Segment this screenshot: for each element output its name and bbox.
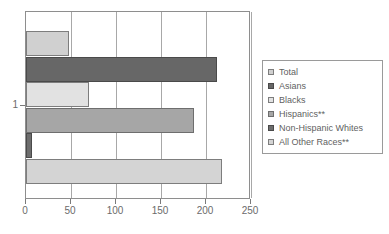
x-axis-tick-label: 200 bbox=[185, 205, 225, 216]
legend-swatch-icon bbox=[268, 83, 274, 89]
legend-item-label: Blacks bbox=[279, 95, 306, 106]
x-axis-tick-label: 50 bbox=[50, 205, 90, 216]
x-axis-tick-mark bbox=[70, 199, 71, 204]
x-axis-tick-label: 150 bbox=[140, 205, 180, 216]
chart-legend: TotalAsiansBlacksHispanics**Non-Hispanic… bbox=[262, 60, 383, 154]
bar-all-other-races bbox=[26, 159, 222, 184]
x-axis-tick-label: 0 bbox=[5, 205, 45, 216]
legend-swatch-icon bbox=[268, 139, 274, 145]
bar-blacks bbox=[26, 82, 89, 107]
x-axis-tick-label: 250 bbox=[230, 205, 270, 216]
x-axis-tick-mark bbox=[205, 199, 206, 204]
legend-item[interactable]: Blacks bbox=[268, 93, 378, 107]
y-axis-tick-mark bbox=[20, 105, 25, 106]
x-axis-tick-mark bbox=[25, 199, 26, 204]
legend-item[interactable]: Asians bbox=[268, 79, 378, 93]
y-axis-tick-label: 1 bbox=[2, 99, 18, 111]
bar-total bbox=[26, 31, 69, 56]
x-axis-tick-label: 100 bbox=[95, 205, 135, 216]
x-axis-tick-mark bbox=[160, 199, 161, 204]
x-axis-tick-mark bbox=[250, 199, 251, 204]
legend-swatch-icon bbox=[268, 125, 274, 131]
bar-chart-figure: 1 050100150200250 TotalAsiansBlacksHispa… bbox=[0, 0, 389, 234]
gridline bbox=[251, 12, 252, 198]
legend-item-label: Non-Hispanic Whites bbox=[279, 123, 363, 134]
legend-item-label: Asians bbox=[279, 81, 306, 92]
bar-series-group bbox=[26, 12, 249, 198]
x-axis-tick-mark bbox=[115, 199, 116, 204]
legend-item-label: All Other Races** bbox=[279, 137, 349, 148]
legend-swatch-icon bbox=[268, 69, 274, 75]
legend-item[interactable]: Hispanics** bbox=[268, 107, 378, 121]
bar-non-hispanic-whites bbox=[26, 133, 32, 158]
bar-asians bbox=[26, 57, 217, 82]
plot-area bbox=[25, 11, 250, 199]
legend-item[interactable]: Non-Hispanic Whites bbox=[268, 121, 378, 135]
legend-item[interactable]: All Other Races** bbox=[268, 135, 378, 149]
legend-swatch-icon bbox=[268, 111, 274, 117]
bar-hispanics bbox=[26, 108, 194, 133]
legend-item[interactable]: Total bbox=[268, 65, 378, 79]
legend-item-label: Hispanics** bbox=[279, 109, 325, 120]
legend-swatch-icon bbox=[268, 97, 274, 103]
legend-item-label: Total bbox=[279, 67, 298, 78]
